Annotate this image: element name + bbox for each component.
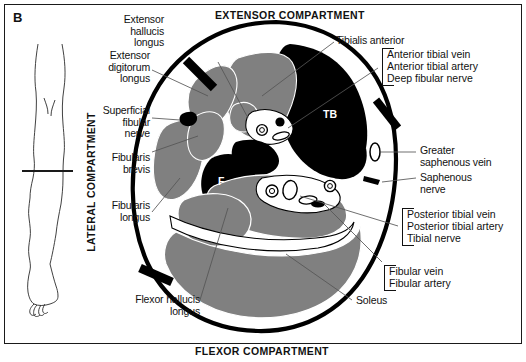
label-fibularis-brevis: Fibularis brevis [74,152,150,175]
bracket-anterior-neurovascular-bundle: Anterior tibial vein Anterior tibial art… [382,48,394,86]
label-fibularis-longus: Fibularis longus [74,200,150,223]
bracket-anterior-items: Anterior tibial vein Anterior tibial art… [387,49,478,85]
label-greater-saphenous-vein: Greater saphenous vein [420,145,491,168]
label-saphenous-nerve: Saphenous nerve [420,172,472,195]
bracket-posterior-neurovascular-bundle: Posterior tibial vein Posterior tibial a… [402,208,414,246]
anatomy-figure-panel: B EXTENSOR COMPARTMENT FLEXOR COMPARTMEN… [0,0,526,362]
label-extensor-digitorum-longus: Extensor digitorum longus [68,50,150,85]
label-extensor-hallucis-longus: Extensor hallucis longus [98,14,164,49]
greater-saphenous-vein [370,143,380,161]
bracket-fibular-items: Fibular vein Fibular artery [389,266,451,290]
label-soleus: Soleus [356,295,387,307]
label-flexor-hallucis-longus: Flexor hallucis longus [118,294,200,317]
bracket-fibular-vessels: Fibular vein Fibular artery [384,265,396,291]
tibia-abbrev-label: TB [323,108,337,120]
fibula-abbrev-label: F [218,175,224,187]
label-superficial-fibular-nerve: Superficial fibular nerve [62,105,150,140]
leg-orientation-inset [22,44,73,317]
bracket-posterior-items: Posterior tibial vein Posterior tibial a… [407,209,503,245]
label-tibialis-anterior: Tibialis anterior [336,35,404,47]
